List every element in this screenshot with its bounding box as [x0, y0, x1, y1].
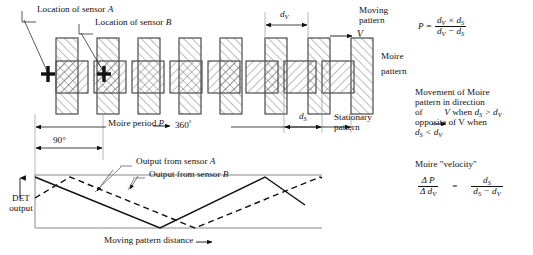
waveform-sensor-b	[35, 177, 322, 228]
y-axis-label: DET output	[3, 194, 39, 214]
x-axis-label: Moving pattern distance	[104, 236, 193, 246]
waveform-callout-leaders	[95, 166, 145, 192]
movement-note: Movement of Moire pattern in direction o…	[415, 88, 502, 138]
moving-pattern-label: Moving pattern	[359, 6, 388, 26]
dv-label: dV	[280, 10, 289, 20]
graph-axes	[20, 175, 322, 228]
sensor-a-marker	[41, 66, 55, 82]
waveform-sensor-a	[35, 177, 305, 228]
velocity-symbol-label: V	[357, 29, 363, 40]
velocity-heading: Moire "velocity"	[415, 160, 477, 170]
stationary-pattern-label: Stationary pattern	[334, 113, 372, 133]
sensor-a-callout-label: Location of sensor A	[37, 5, 113, 15]
ninety-degree-label: 90°	[53, 136, 66, 146]
legend-sensor-b: Output from sensor B	[149, 170, 228, 180]
legend-sensor-a: Output from sensor A	[136, 157, 215, 167]
velocity-equation: Δ P Δ dV = dS dS − dV	[418, 176, 503, 197]
sensor-b-callout-label: Location of sensor B	[95, 18, 171, 28]
ds-label: dS	[299, 112, 307, 122]
diagram-root: Location of sensor A Location of sensor …	[0, 0, 533, 255]
period-equation: P = dV × dS dV − dS	[418, 16, 466, 37]
degrees-360-label: 360°	[175, 119, 191, 131]
sensor-a-leader	[22, 11, 47, 71]
moire-period-label: Moire period P	[108, 119, 164, 129]
waveform-callout-arrows	[97, 170, 138, 191]
moire-pattern-label: Moire pattern	[381, 52, 407, 77]
